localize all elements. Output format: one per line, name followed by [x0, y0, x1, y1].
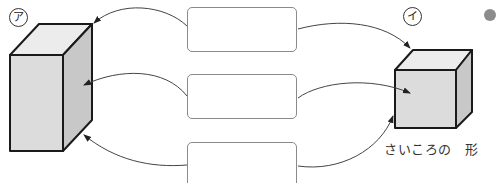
cube [395, 50, 472, 128]
left-arrows [84, 8, 187, 166]
marker-a-label: ア [9, 8, 28, 27]
marker-i-label: イ [403, 7, 422, 26]
bullet-dot-icon [484, 9, 496, 21]
answer-box-top[interactable] [187, 7, 297, 52]
answer-box-bottom[interactable] [187, 142, 297, 183]
cube-caption: さいころの 形 [384, 139, 479, 158]
diagram-stage: ア イ さいころの 形 [0, 0, 496, 183]
rectangular-prism [10, 24, 92, 151]
answer-box-middle[interactable] [187, 74, 297, 119]
